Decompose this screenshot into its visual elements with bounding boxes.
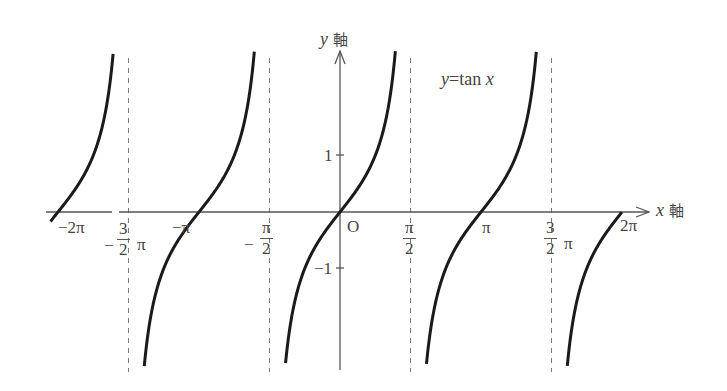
frac-numerator: π [403,219,416,236]
y-tick-label-1: 1 [324,147,333,164]
tan-curve-branches [51,51,622,366]
tick-label-neg-pi: −π [172,219,190,236]
x-axis-suffix: 軸 [669,202,684,220]
tick-label-neg-three-half-pi-pi: π [137,236,146,253]
tick-label-pi: π [482,219,491,236]
equation-y: y [441,69,449,89]
frac-denominator: 2 [262,240,271,257]
tan-chart-plot [0,0,727,391]
y-axis-label: y 軸 [320,30,348,48]
y-tick-label-neg1: −1 [314,260,332,277]
tan-curve-branch [426,52,536,364]
origin-label: O [347,218,359,235]
tick-label-neg-half-pi: π 2 [260,219,273,257]
x-axis-label: x 軸 [656,201,684,219]
frac-numerator: 3 [544,219,557,236]
frac-numerator: 3 [117,220,130,237]
tick-label-neg-two-pi: −2π [58,219,85,236]
tick-label-three-half-pi: 3 2 [544,219,557,257]
tick-label-neg-three-half-pi-sign: − [104,237,114,254]
tick-label-two-pi: 2π [620,217,637,234]
tick-label-half-pi: π 2 [403,219,416,257]
y-axis-var: y [320,29,328,49]
equation-x: x [486,69,494,89]
axes [46,51,649,370]
tan-curve-branch [567,212,622,366]
equation-eq: =tan [449,69,486,89]
frac-denominator: 2 [405,240,414,257]
tan-curve-branch [199,52,254,212]
tick-label-neg-half-pi-sign: − [244,236,254,253]
frac-numerator: π [260,219,273,236]
equation-label: y=tan x [441,70,494,88]
frac-denominator: 2 [546,240,555,257]
y-axis-suffix: 軸 [333,31,348,49]
tan-curve-branch [51,54,114,222]
tick-label-neg-three-half-pi: 3 2 [117,220,130,258]
frac-denominator: 2 [119,241,128,258]
tick-label-three-half-pi-pi: π [564,235,573,252]
x-axis-var: x [656,200,664,220]
